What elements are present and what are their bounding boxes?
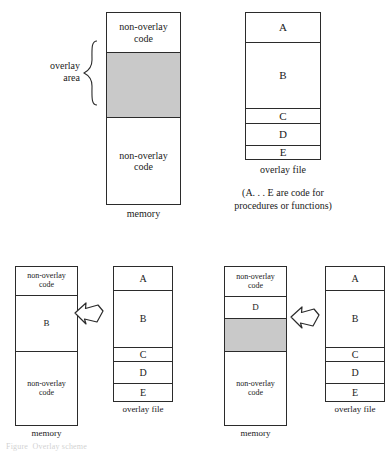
segment-label: non-overlay code [119,21,167,43]
bl-overlayfile-segment-c: C [114,348,172,362]
bl-overlayfile-block: A B C D E [113,266,173,402]
br-overlayfile-caption: overlay file [317,404,390,415]
top-overlayfile-caption: overlay file [238,164,328,177]
bl-memory-segment-loaded-b: B [16,296,77,352]
bl-memory-caption: memory [15,428,78,439]
load-arrow-right [288,302,323,332]
left-arrow-icon [72,298,107,328]
segment-label: C [140,349,147,360]
top-overlayfile-block: A B C D E [245,12,321,160]
br-memory-segment-nonoverlay-upper: non-overlay code [225,267,286,297]
overlayfile-segment-c: C [246,109,320,124]
right-arrow-icon [288,302,323,332]
segment-label: B [43,318,49,328]
segment-label: D [139,367,146,378]
top-memory-segment-nonoverlay-upper: non-overlay code [107,13,180,53]
bl-overlayfile-segment-d: D [114,362,172,384]
bl-memory-segment-nonoverlay-lower: non-overlay code [16,352,77,425]
br-overlayfile-segment-c: C [326,348,384,362]
segment-label: B [352,313,359,324]
segment-label: C [279,110,286,122]
overlay-area-label: overlay area [14,60,80,83]
segment-label: non-overlay code [27,272,66,290]
bl-overlayfile-segment-b: B [114,291,172,348]
segment-label: D [252,302,259,312]
bl-memory-segment-nonoverlay-upper: non-overlay code [16,267,77,296]
segment-label: A [279,21,287,33]
br-memory-segment-free-space [225,319,286,352]
figure-canvas: non-overlay code non-overlay code overla… [0,0,390,451]
segment-label: non-overlay code [27,380,66,398]
overlayfile-segment-a: A [246,13,320,43]
brace-icon [83,40,99,106]
load-arrow-left [72,298,107,328]
br-overlayfile-segment-b: B [326,291,384,348]
overlay-area-brace [83,40,99,106]
segment-label: B [140,313,147,324]
br-memory-caption: memory [224,428,287,439]
segment-label: A [139,273,146,284]
br-overlayfile-block: A B C D E [325,266,385,402]
overlayfile-segment-e: E [246,146,320,159]
bl-memory-block: non-overlay code B non-overlay code [15,266,78,426]
segment-label: A [351,273,358,284]
top-memory-caption: memory [106,208,181,221]
segment-label: non-overlay code [119,150,167,172]
top-memory-segment-overlay-area [107,53,180,118]
segment-label: B [279,69,286,81]
br-overlayfile-segment-e: E [326,384,384,401]
br-memory-block: non-overlay code D non-overlay code [224,266,287,426]
figure-footer-caption: Figure Overlay scheme [6,442,87,451]
br-overlayfile-segment-d: D [326,362,384,384]
br-memory-segment-nonoverlay-lower: non-overlay code [225,352,286,425]
segment-label: non-overlay code [236,380,275,398]
segment-label: non-overlay code [236,273,275,291]
segment-label: C [352,349,359,360]
top-memory-segment-nonoverlay-lower: non-overlay code [107,118,180,204]
br-memory-segment-loaded-d: D [225,297,286,319]
overlayfile-segment-b: B [246,43,320,109]
overlayfile-note: (A. . . E are code for procedures or fun… [222,187,344,212]
top-memory-block: non-overlay code non-overlay code [106,12,181,205]
segment-label: D [351,367,358,378]
bl-overlayfile-segment-e: E [114,384,172,401]
segment-label: E [140,387,146,398]
segment-label: E [352,387,358,398]
segment-label: E [280,146,287,158]
segment-label: D [279,128,287,140]
overlayfile-segment-d: D [246,124,320,146]
br-overlayfile-segment-a: A [326,267,384,291]
bl-overlayfile-caption: overlay file [105,404,181,415]
bl-overlayfile-segment-a: A [114,267,172,291]
